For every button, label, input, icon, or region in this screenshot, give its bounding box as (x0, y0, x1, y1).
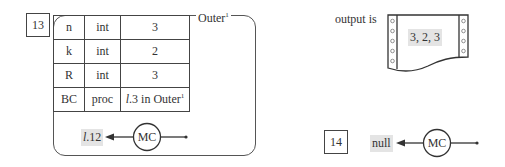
return-null-label: null (370, 135, 393, 152)
mc-node-label: MC (134, 130, 160, 145)
mc-node-label: MC (424, 136, 450, 151)
line-end-dot (475, 141, 478, 144)
step-number-text: 14 (330, 135, 342, 150)
output-text: 3, 2, 3 (408, 29, 442, 46)
arrow-head-icon (105, 134, 114, 141)
arrow-head-icon (396, 140, 405, 147)
step-number-14: 14 (324, 130, 348, 154)
line-end-dot (184, 135, 187, 138)
output-label: output is (335, 12, 377, 27)
